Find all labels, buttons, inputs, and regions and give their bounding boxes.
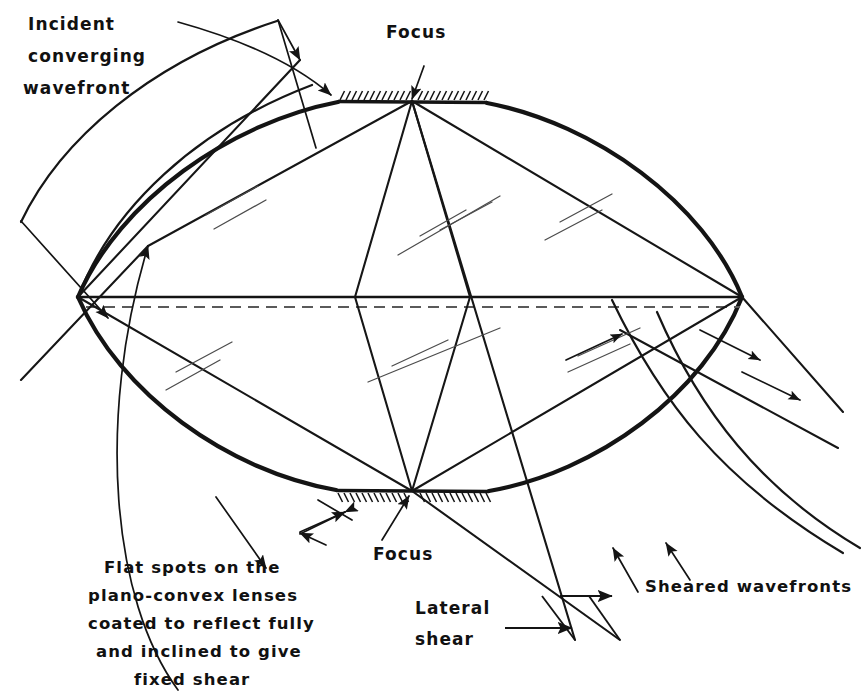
incident-label-line1: Incident xyxy=(28,14,115,34)
label-incident-wavefront: Incident converging wavefront xyxy=(23,14,146,98)
focus-top-label: Focus xyxy=(386,22,446,42)
sheared-wavefront-arcs xyxy=(612,300,860,553)
incident-label-line3: wavefront xyxy=(23,78,130,98)
lateral-shear-line1: Lateral xyxy=(415,598,490,618)
incident-label-line2: converging xyxy=(28,46,146,66)
flat-spots-line1: Flat spots on the xyxy=(104,558,280,577)
flat-spots-line5: fixed shear xyxy=(134,670,250,689)
lateral-shear-dimension xyxy=(505,596,620,640)
sheared-wavefront-2 xyxy=(657,312,860,548)
focus-bottom-leader xyxy=(382,496,409,540)
flat-spots-line2: plano-convex lenses xyxy=(88,586,298,605)
bottom-mirror-hatching xyxy=(338,493,491,502)
flat-spots-line4: and inclined to give xyxy=(96,642,302,661)
sheared-wavefront-1 xyxy=(612,300,843,553)
incident-wavefront-inner xyxy=(78,85,312,297)
focus-bottom-label: Focus xyxy=(373,544,433,564)
lens-surface-leader-top xyxy=(178,22,331,95)
focus-top-leader xyxy=(412,66,424,99)
lateral-shear-line2: shear xyxy=(415,629,474,649)
diagram-canvas: Incident converging wavefront Focus Focu… xyxy=(0,0,863,698)
ray-direction-ticks xyxy=(166,186,640,390)
optical-diagram-figure: Incident converging wavefront Focus Focu… xyxy=(0,0,863,698)
sheared-wavefront-direction-arrows xyxy=(700,330,800,400)
flat-spots-line3: coated to reflect fully xyxy=(88,614,315,633)
optical-axis xyxy=(78,297,742,307)
sheared-wavefronts-label: Sheared wavefronts xyxy=(645,577,852,596)
label-flat-spots-caption: Flat spots on the plano-convex lenses co… xyxy=(88,558,315,689)
label-lateral-shear: Lateral shear xyxy=(415,598,490,649)
